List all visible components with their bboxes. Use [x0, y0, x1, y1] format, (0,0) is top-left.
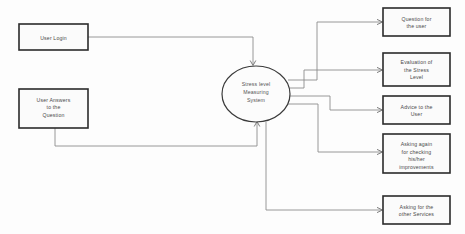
- diagram-canvas: User Login User Answers to the Question …: [0, 0, 465, 234]
- node-asking-again-line-4: improvements: [399, 164, 434, 170]
- node-advice-to-user[interactable]: Advice to the User: [383, 96, 450, 124]
- node-user-answers-line-1: User Answers: [37, 97, 71, 103]
- process-label-line-3: System: [247, 97, 265, 103]
- node-evaluation-line-1: Evaluation of: [401, 59, 433, 65]
- node-advice-line-2: User: [411, 111, 423, 117]
- node-asking-services-line-2: other Services: [399, 211, 435, 217]
- node-stress-level-measuring-system[interactable]: Stress level Measuring System: [222, 66, 290, 122]
- flow-process-to-asking-again: [284, 104, 383, 155]
- node-asking-other-services[interactable]: Asking for the other Services: [383, 196, 450, 224]
- node-question-for-user-line-2: the user: [407, 23, 427, 29]
- flow-process-to-asking-services: [266, 122, 383, 213]
- node-asking-again-line-3: his/her: [408, 156, 425, 162]
- node-question-for-user[interactable]: Question for the user: [383, 8, 450, 36]
- node-asking-services-line-1: Asking for the: [400, 204, 434, 210]
- node-user-login-line-1: User Login: [40, 35, 67, 41]
- node-asking-again-line-1: Asking again: [401, 141, 433, 147]
- flow-process-to-evaluation: [290, 67, 383, 88]
- node-asking-again-improvements[interactable]: Asking again for checking his/her improv…: [383, 134, 450, 173]
- process-label-line-1: Stress level: [242, 81, 271, 87]
- process-label-line-2: Measuring: [243, 89, 269, 95]
- flow-process-to-question-for-user: [288, 19, 383, 80]
- data-flow-diagram: User Login User Answers to the Question …: [0, 0, 465, 234]
- node-evaluation-line-2: the Stress: [404, 67, 429, 73]
- node-user-login[interactable]: User Login: [19, 24, 88, 50]
- node-evaluation-line-3: Level: [410, 74, 423, 80]
- node-asking-again-line-2: for checking: [402, 149, 432, 155]
- node-question-for-user-line-1: Question for: [401, 16, 431, 22]
- node-user-answers-line-2: to the: [47, 104, 61, 110]
- node-evaluation-of-stress-level[interactable]: Evaluation of the Stress Level: [383, 53, 450, 86]
- node-user-answers[interactable]: User Answers to the Question: [19, 89, 88, 128]
- node-user-answers-line-3: Question: [43, 112, 65, 118]
- flow-user-login-to-process: [88, 37, 256, 66]
- node-advice-line-1: Advice to the: [401, 104, 433, 110]
